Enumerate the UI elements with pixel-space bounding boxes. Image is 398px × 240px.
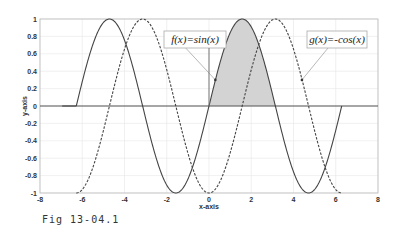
x-tick-label: 4 (292, 196, 296, 203)
y-tick-label: -1 (31, 190, 37, 197)
y-tick-label: 0 (33, 103, 37, 110)
y-tick-label: -0.6 (25, 155, 37, 162)
annotation-leader-line (302, 48, 328, 80)
x-axis-label: x-axis (199, 203, 219, 210)
x-tick-label: -6 (79, 196, 85, 203)
chart: -8-6-4-202468-1-0.8-0.6-0.4-0.200.20.40.… (0, 0, 398, 210)
y-tick-label: 0.8 (27, 33, 37, 40)
y-tick-label: 0.4 (27, 68, 37, 75)
y-tick-label: 0.6 (27, 50, 37, 57)
x-tick-label: 8 (376, 196, 380, 203)
annotation-arrow-point (301, 79, 304, 82)
y-tick-label: 0.2 (27, 85, 37, 92)
y-tick-label: -0.4 (25, 137, 37, 144)
x-tick-label: 0 (207, 196, 211, 203)
x-tick-label: 2 (249, 196, 253, 203)
x-tick-label: 6 (334, 196, 338, 203)
annotation-arrow-point (214, 79, 217, 82)
y-axis-label: y-axis (21, 96, 29, 116)
annotation-text: f(x)=sin(x) (171, 33, 219, 46)
figure-caption: Fig 13-04.1 (42, 214, 119, 225)
annotation-leader-line (186, 48, 216, 80)
x-tick-label: -4 (121, 196, 127, 203)
y-tick-label: -0.2 (25, 120, 37, 127)
y-tick-label: 1 (33, 16, 37, 23)
x-tick-label: -2 (164, 196, 170, 203)
annotation-text: g(x)=-cos(x) (309, 33, 365, 46)
x-tick-label: -8 (37, 196, 43, 203)
y-tick-label: -0.8 (25, 172, 37, 179)
